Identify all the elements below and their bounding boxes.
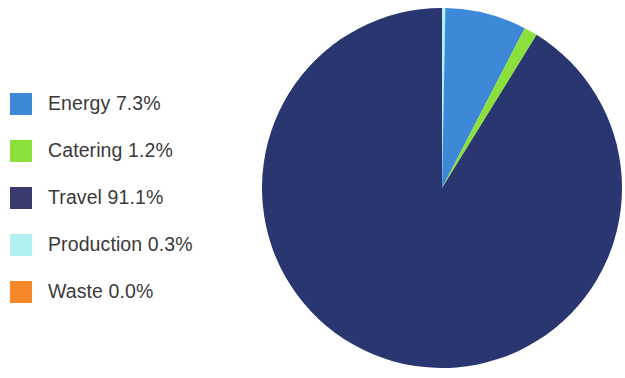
pie-svg <box>262 8 622 368</box>
legend-item-waste: Waste 0.0% <box>0 268 250 315</box>
legend-swatch-production <box>10 234 32 256</box>
legend-label-catering: Catering 1.2% <box>48 141 173 161</box>
legend-item-energy: Energy 7.3% <box>0 80 250 127</box>
legend-label-production: Production 0.3% <box>48 235 193 255</box>
pie-chart-figure: Energy 7.3% Catering 1.2% Travel 91.1% P… <box>0 0 625 378</box>
legend-item-production: Production 0.3% <box>0 221 250 268</box>
chart-legend: Energy 7.3% Catering 1.2% Travel 91.1% P… <box>0 80 250 315</box>
legend-swatch-waste <box>10 281 32 303</box>
legend-swatch-energy <box>10 93 32 115</box>
legend-label-energy: Energy 7.3% <box>48 94 161 114</box>
legend-label-waste: Waste 0.0% <box>48 282 153 302</box>
legend-label-travel: Travel 91.1% <box>48 188 163 208</box>
pie-slice-group <box>262 8 622 368</box>
legend-item-travel: Travel 91.1% <box>0 174 250 221</box>
legend-swatch-travel <box>10 187 32 209</box>
pie-plot-area <box>262 8 622 368</box>
legend-item-catering: Catering 1.2% <box>0 127 250 174</box>
legend-swatch-catering <box>10 140 32 162</box>
